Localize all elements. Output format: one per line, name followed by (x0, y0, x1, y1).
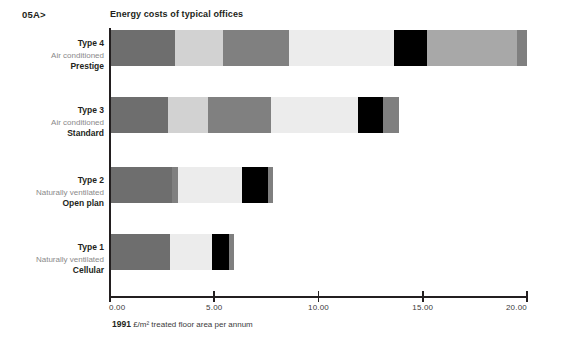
bar-segment (517, 30, 527, 66)
bar-segment (110, 30, 175, 66)
bar-row (110, 234, 234, 270)
x-axis-caption-year: 1991 (112, 319, 131, 329)
stacked-bar (110, 167, 273, 203)
x-tick-3 (422, 291, 424, 302)
x-tick-label-2: 10.00 (308, 303, 329, 312)
row-label-grade: Prestige (4, 61, 104, 73)
row-label-type: Type 3 (4, 105, 104, 117)
x-tick-4 (526, 291, 528, 302)
bar-segment (212, 234, 229, 270)
bar-row (110, 167, 273, 203)
bar-segment (394, 30, 427, 66)
bar-segment (208, 97, 271, 133)
row-label-ventilation: Naturally ventilated (4, 187, 104, 199)
bar-segment (168, 97, 208, 133)
stacked-bar (110, 97, 399, 133)
x-tick-1 (213, 291, 215, 302)
bar-segment (175, 30, 223, 66)
bar-segment (178, 167, 243, 203)
x-tick-label-3: 15.00 (412, 303, 433, 312)
bar-segment (427, 30, 517, 66)
row-label-grade: Cellular (4, 265, 104, 277)
bar-segment (242, 167, 268, 203)
row-label-ventilation: Air conditioned (4, 50, 104, 62)
x-tick-label-4: 20.00 (506, 303, 527, 312)
bar-row (110, 97, 399, 133)
bar-segment (289, 30, 393, 66)
row-label-type: Type 2 (4, 175, 104, 187)
x-tick-2 (318, 291, 320, 302)
row-label-grade: Open plan (4, 198, 104, 210)
row-label-type: Type 4 (4, 38, 104, 50)
x-tick-0 (109, 291, 111, 302)
bar-segment (268, 167, 272, 203)
plot-area: Type 4Air conditionedPrestigeType 3Air c… (0, 0, 563, 344)
bar-segment (110, 167, 172, 203)
row-label-type: Type 1 (4, 242, 104, 254)
stacked-bar (110, 30, 527, 66)
bar-segment (383, 97, 399, 133)
x-tick-label-0: 0.00 (109, 303, 125, 312)
bar-segment (271, 97, 359, 133)
bar-segment (223, 30, 290, 66)
bar-row (110, 30, 527, 66)
x-axis-caption: 1991 £/m² treated floor area per annum (112, 319, 253, 329)
x-tick-label-1: 5.00 (206, 303, 222, 312)
bar-segment (110, 234, 170, 270)
chart-page: 05A> Energy costs of typical offices Typ… (0, 0, 563, 344)
y-axis-line (109, 28, 111, 297)
bar-segment (170, 234, 212, 270)
bar-segment (358, 97, 383, 133)
row-label-ventilation: Naturally ventilated (4, 254, 104, 266)
row-label-ventilation: Air conditioned (4, 117, 104, 129)
x-axis-caption-text: £/m² treated floor area per annum (131, 320, 253, 329)
bar-segment (110, 97, 168, 133)
row-label-grade: Standard (4, 128, 104, 140)
stacked-bar (110, 234, 234, 270)
bar-segment (229, 234, 234, 270)
